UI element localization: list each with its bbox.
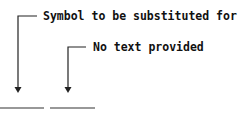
callout-label-no-text: No text provided — [93, 40, 204, 54]
callout-label-symbol: Symbol to be substituted for — [43, 9, 237, 23]
arrowhead-icon — [65, 87, 72, 93]
callout-arrow-1 — [15, 16, 38, 93]
diagram-canvas: Symbol to be substituted for No text pro… — [0, 0, 251, 115]
callout-arrow-2 — [65, 47, 87, 93]
arrowhead-icon — [15, 87, 22, 93]
